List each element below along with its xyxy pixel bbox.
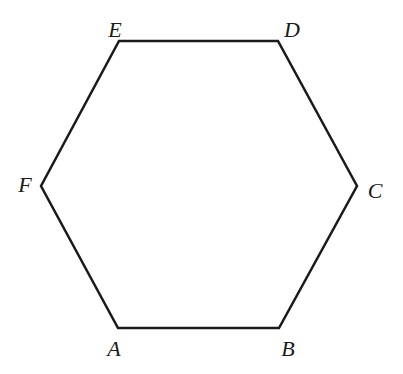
vertex-label-a: A [107,338,120,360]
vertex-label-b: B [281,338,294,360]
figure-background [0,0,403,374]
hexagon-drawing [0,0,403,374]
vertex-label-c: C [368,180,383,202]
vertex-label-d: D [284,19,300,41]
vertex-label-e: E [108,19,121,41]
vertex-label-f: F [18,174,31,196]
hexagon-figure: A B C D E F [0,0,403,374]
